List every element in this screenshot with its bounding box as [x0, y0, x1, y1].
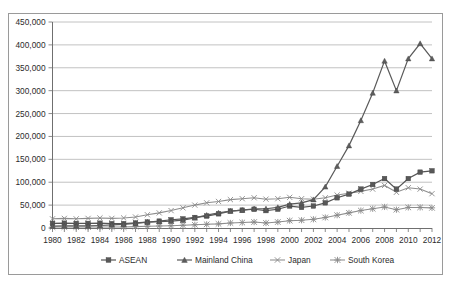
y-axis-tick-label: 100,000 — [16, 177, 46, 187]
x-axis-tick-label: 2008 — [375, 235, 394, 245]
x-axis-tick-label: 2012 — [423, 235, 442, 245]
x-axis-tick-label: 1988 — [138, 235, 157, 245]
data-point-marker — [370, 182, 375, 187]
data-point-marker — [323, 201, 328, 206]
y-axis-tick-label: 0 — [41, 223, 46, 233]
x-axis-tick-label: 1986 — [114, 235, 133, 245]
data-point-marker — [180, 222, 186, 228]
legend-label: South Korea — [348, 255, 395, 265]
y-axis-tick-label: 350,000 — [16, 63, 46, 73]
data-point-marker — [334, 212, 340, 218]
x-axis-tick-label: 2004 — [328, 235, 347, 245]
data-point-marker — [287, 218, 293, 224]
data-point-marker — [310, 216, 316, 222]
data-point-marker — [298, 217, 304, 223]
data-point-marker — [405, 204, 411, 210]
data-point-marker — [335, 195, 340, 200]
chart-container: 050,000100,000150,000200,000250,000300,0… — [0, 0, 452, 286]
x-axis-tick-label: 1980 — [43, 235, 62, 245]
x-axis-tick-label: 1994 — [209, 235, 228, 245]
series-japan — [50, 183, 435, 222]
data-point-marker — [429, 191, 434, 196]
x-axis-tick-label: 1996 — [233, 235, 252, 245]
data-point-marker — [346, 210, 352, 216]
data-point-marker — [417, 41, 422, 46]
legend-item-china[interactable]: Mainland China — [177, 255, 253, 265]
data-point-marker — [227, 220, 233, 226]
data-point-marker — [334, 257, 340, 263]
y-axis-labels: 050,000100,000150,000200,000250,000300,0… — [16, 17, 46, 233]
data-point-marker — [358, 208, 364, 214]
data-point-marker — [382, 183, 387, 188]
data-point-marker — [381, 204, 387, 210]
x-axis-tick-label: 1998 — [257, 235, 276, 245]
y-axis-tick-label: 50,000 — [20, 200, 46, 210]
x-axis-tick-label: 2000 — [280, 235, 299, 245]
series-china — [50, 41, 435, 229]
legend-label: Japan — [288, 255, 311, 265]
series-asean — [50, 168, 434, 225]
data-point-marker — [275, 219, 281, 225]
data-point-marker — [251, 219, 257, 225]
legend-item-japan[interactable]: Japan — [270, 255, 311, 265]
legend-item-korea[interactable]: South Korea — [330, 255, 395, 265]
data-point-marker — [192, 222, 198, 228]
data-point-marker — [382, 176, 387, 181]
data-point-marker — [334, 164, 339, 169]
legend-item-asean[interactable]: ASEAN — [101, 255, 147, 265]
data-point-marker — [263, 220, 269, 226]
data-point-marker — [418, 170, 423, 175]
y-axis-tick-label: 450,000 — [16, 17, 46, 27]
legend-label: Mainland China — [195, 255, 253, 265]
data-point-marker — [359, 187, 364, 192]
data-point-marker — [346, 143, 351, 148]
legend-label: ASEAN — [119, 255, 147, 265]
data-point-marker — [299, 205, 304, 210]
data-point-marker — [394, 187, 399, 192]
y-axis-tick-label: 150,000 — [16, 154, 46, 164]
y-axis-ticks — [49, 22, 53, 228]
data-point-marker — [382, 58, 387, 63]
data-point-marker — [370, 206, 376, 212]
x-axis-tick-label: 2002 — [304, 235, 323, 245]
data-point-marker — [430, 168, 435, 173]
x-axis-tick-label: 1990 — [162, 235, 181, 245]
data-point-marker — [215, 221, 221, 227]
series-line — [53, 185, 433, 218]
data-point-marker — [106, 258, 111, 263]
data-point-marker — [204, 221, 210, 227]
y-axis-tick-label: 250,000 — [16, 109, 46, 119]
gridlines-group — [53, 22, 433, 205]
data-point-marker — [311, 204, 316, 209]
x-axis-tick-label: 2010 — [399, 235, 418, 245]
x-axis-tick-label: 1982 — [67, 235, 86, 245]
y-axis-tick-label: 300,000 — [16, 86, 46, 96]
data-point-marker — [239, 219, 245, 225]
series-group — [49, 41, 435, 230]
y-axis-tick-label: 400,000 — [16, 40, 46, 50]
data-point-marker — [429, 205, 435, 211]
y-axis-tick-label: 200,000 — [16, 131, 46, 141]
data-point-marker — [417, 204, 423, 210]
data-point-marker — [406, 176, 411, 181]
x-axis-labels: 1980198219841986198819901992199419961998… — [43, 235, 441, 245]
data-point-marker — [347, 192, 352, 197]
x-axis-tick-label: 1984 — [91, 235, 110, 245]
chart-plot: 050,000100,000150,000200,000250,000300,0… — [0, 0, 452, 286]
chart-legend: ASEANMainland ChinaJapanSouth Korea — [101, 255, 395, 265]
data-point-marker — [323, 184, 328, 189]
x-axis-tick-label: 2006 — [352, 235, 371, 245]
data-point-marker — [358, 118, 363, 123]
data-point-marker — [322, 214, 328, 220]
data-point-marker — [393, 207, 399, 213]
x-axis-tick-label: 1992 — [186, 235, 205, 245]
